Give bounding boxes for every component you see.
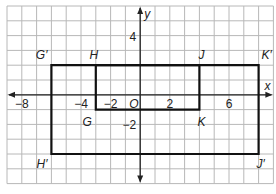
- vertex-label-g: G: [82, 115, 91, 129]
- axes: [8, 7, 272, 183]
- y-axis-label: y: [143, 7, 151, 21]
- origin-label: O: [129, 97, 138, 111]
- x-tick-label: −4: [74, 97, 88, 111]
- y-tick-label: −2: [123, 118, 137, 132]
- labels: xyO−8−4−2264−2GHJKG′H′J′K′: [15, 7, 273, 171]
- y-tick-label: 4: [130, 30, 137, 44]
- vertex-label-h: H: [89, 48, 98, 62]
- x-axis-arrow-left-icon: [8, 92, 15, 98]
- y-axis-arrow-up-icon: [137, 7, 143, 14]
- x-axis-label: x: [263, 79, 271, 93]
- vertex-label-k-prime: K′: [262, 48, 273, 62]
- x-tick-label: 2: [166, 97, 173, 111]
- vertex-label-j-prime: J′: [255, 157, 265, 171]
- y-axis-arrow-down-icon: [137, 176, 143, 183]
- x-tick-label: −2: [104, 97, 118, 111]
- vertex-label-j: J: [197, 48, 205, 62]
- vertex-label-h-prime: H′: [36, 157, 48, 171]
- coordinate-grid: xyO−8−4−2264−2GHJKG′H′J′K′: [0, 0, 276, 194]
- x-tick-label: 6: [226, 97, 233, 111]
- vertex-label-k: K: [197, 115, 206, 129]
- x-tick-label: −8: [15, 97, 29, 111]
- vertex-label-g-prime: G′: [36, 48, 48, 62]
